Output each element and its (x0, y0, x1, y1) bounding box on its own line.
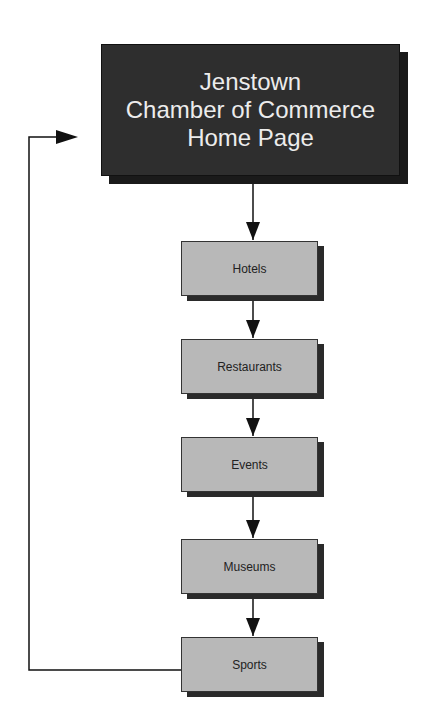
node-label: Museums (223, 560, 275, 574)
root-line-2: Chamber of Commerce (126, 96, 375, 124)
node-label: Events (231, 458, 268, 472)
node-label: Hotels (232, 262, 266, 276)
node-hotels: Hotels (181, 241, 318, 296)
node-restaurants: Restaurants (181, 339, 318, 394)
root-line-3: Home Page (187, 124, 314, 152)
loop-back-arrowhead (56, 130, 78, 144)
loop-back-line (29, 137, 181, 670)
node-museums: Museums (181, 539, 318, 594)
node-label: Restaurants (217, 360, 282, 374)
node-sports: Sports (181, 637, 318, 692)
root-node-home-page: Jenstown Chamber of Commerce Home Page (101, 44, 400, 176)
root-line-1: Jenstown (200, 68, 301, 96)
node-events: Events (181, 437, 318, 492)
node-label: Sports (232, 658, 267, 672)
